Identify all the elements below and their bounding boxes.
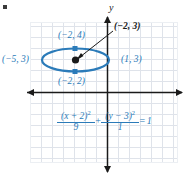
equation-right-side: 1: [147, 116, 152, 126]
equation-term-1: (x + 2)2 9: [59, 110, 93, 132]
label-left-vertex: (−5, 3): [2, 55, 29, 65]
equation-term-1-numerator: (x + 2)2: [59, 110, 93, 122]
y-axis-label: y: [109, 3, 113, 13]
label-center: (−2, 3): [114, 22, 140, 32]
equation-operator: +: [95, 116, 101, 126]
equation-term-2-numerator: (y − 3)2: [103, 110, 137, 122]
point-center: [72, 56, 79, 63]
equation-term-1-denominator: 9: [57, 122, 95, 133]
label-bottom-vertex: (−2, 2): [58, 77, 85, 87]
equation-term-2-denominator: 1: [101, 122, 139, 133]
label-top-vertex: (−2, 4): [58, 31, 85, 41]
point-top-covertex: [73, 46, 78, 51]
ellipse-graph-figure: y (−2, 4) (−2, 2) (−5, 3) (1, 3) (−2, 3)…: [0, 0, 188, 181]
label-right-vertex: (1, 3): [121, 55, 142, 65]
ellipse-equation: (x + 2)2 9 + (y − 3)2 1 = 1: [58, 110, 152, 132]
equation-equals-sign: =: [140, 116, 146, 126]
equation-term-2: (y − 3)2 1: [103, 110, 137, 132]
point-bottom-covertex: [73, 69, 78, 74]
graph-canvas: [0, 0, 188, 181]
